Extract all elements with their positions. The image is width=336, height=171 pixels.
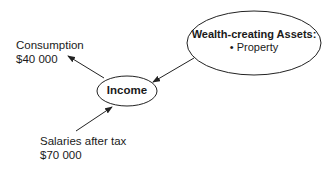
consumption-name: Consumption <box>16 38 84 52</box>
wealth-node-item: • Property <box>190 41 318 53</box>
salaries-name: Salaries after tax <box>40 134 126 148</box>
salaries-label: Salaries after tax $70 000 <box>40 134 126 162</box>
wealth-node: Wealth-creating Assets: • Property <box>190 28 318 53</box>
edge-wealth-to-income <box>153 58 194 82</box>
wealth-node-title: Wealth-creating Assets: <box>190 28 318 40</box>
consumption-amount: $40 000 <box>16 52 84 66</box>
income-node-label: Income <box>97 84 157 96</box>
consumption-label: Consumption $40 000 <box>16 38 84 66</box>
salaries-amount: $70 000 <box>40 148 126 162</box>
edge-salaries-to-income <box>76 107 112 131</box>
